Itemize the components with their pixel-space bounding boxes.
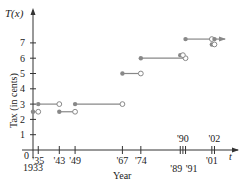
open-endpoint-icon xyxy=(138,71,143,76)
open-endpoint-icon xyxy=(181,53,186,58)
x-tick-label: '74 xyxy=(135,155,147,166)
continuation-arrow-icon xyxy=(219,37,226,42)
open-endpoint-icon xyxy=(120,102,125,107)
chart-canvas: 1234567'35'43'49'67'74'89'91'01'90'02 T(… xyxy=(0,0,245,186)
origin-label: 0 xyxy=(24,150,29,161)
closed-endpoint-icon xyxy=(36,102,40,106)
x-axis-variable: t xyxy=(229,151,232,162)
axes: 1234567'35'43'49'67'74'89'91'01'90'02 xyxy=(20,8,239,174)
y-tick-label: 6 xyxy=(20,53,25,64)
y-tick-label: 7 xyxy=(20,37,25,48)
closed-endpoint-icon xyxy=(139,56,143,60)
tax-step-chart: 1234567'35'43'49'67'74'89'91'01'90'02 T(… xyxy=(0,0,245,186)
y-tick-label: 1 xyxy=(20,129,25,140)
closed-endpoint-icon xyxy=(57,110,61,114)
x-tick-label: '90 xyxy=(177,133,189,144)
x-tick-label: '43 xyxy=(53,155,65,166)
y-tick-label: 3 xyxy=(20,99,25,110)
x-tick-label: '89 xyxy=(170,163,182,174)
open-endpoint-icon xyxy=(36,109,41,114)
x-axis-label: Year xyxy=(113,170,132,181)
x-tick-label: '91 xyxy=(186,163,198,174)
plot-area xyxy=(31,37,226,115)
y-axis-label: Tax (in cents) xyxy=(8,73,20,128)
y-tick-label: 2 xyxy=(20,114,25,125)
x-tick-label: '67 xyxy=(117,155,129,166)
x-tick-label: '01 xyxy=(206,155,218,166)
x-tick-label: '49 xyxy=(69,155,81,166)
y-axis-arrow-icon xyxy=(31,8,36,15)
open-endpoint-icon xyxy=(73,109,78,114)
x-axis-arrow-icon xyxy=(232,148,239,153)
closed-endpoint-icon xyxy=(73,102,77,106)
open-endpoint-icon xyxy=(57,102,62,107)
x-tick-label: '02 xyxy=(209,133,221,144)
y-axis-title: T(x) xyxy=(5,7,24,20)
y-tick-label: 4 xyxy=(20,83,25,94)
closed-endpoint-icon xyxy=(31,110,35,114)
closed-endpoint-icon xyxy=(183,37,187,41)
y-tick-label: 5 xyxy=(20,68,25,79)
origin-year-label: 1933 xyxy=(23,162,43,173)
open-endpoint-icon xyxy=(212,42,217,47)
closed-endpoint-icon xyxy=(120,71,124,75)
closed-endpoint-icon xyxy=(212,37,216,41)
